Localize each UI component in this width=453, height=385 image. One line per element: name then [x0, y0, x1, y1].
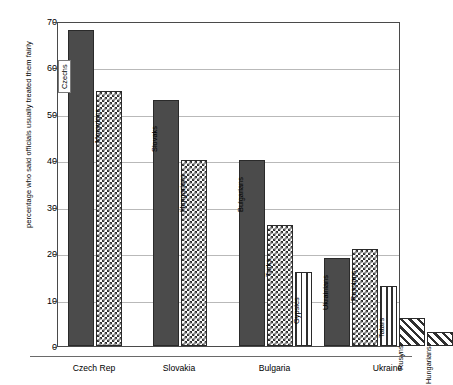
x-axis-line [30, 356, 412, 357]
x-tick-label-slovakia: Slovakia [129, 363, 229, 373]
bar-label: Ukrainians [322, 275, 330, 310]
bar-label: Bulgarians [237, 177, 245, 212]
bar-turks-bulgaria [267, 225, 293, 346]
bar-label: Tatars [378, 318, 386, 338]
x-tick-label-bulgaria: Bulgaria [225, 363, 325, 373]
bar-rusyns-ukraine [399, 318, 425, 346]
gridline [58, 69, 399, 70]
bar-label: Gypsies [293, 297, 301, 324]
bar-label: Czechs [58, 61, 71, 94]
bar-label: Russians [350, 270, 358, 300]
bar-label: Turks [265, 259, 273, 277]
bar-czechs-czech-rep [68, 30, 94, 346]
bar-label: Slovaks [151, 126, 159, 152]
y-tick-mark [53, 347, 57, 348]
y-axis: 010203040506070 [22, 22, 57, 347]
bar-label: Hungarians [179, 174, 187, 212]
bar-hungarians-ukraine [427, 332, 453, 346]
plot-area: CzechsMoraviansSlovaksHungariansBulgaria… [57, 22, 400, 347]
x-tick-label-ukraine: Ukraine [338, 363, 438, 373]
bar-label: Moravians [94, 109, 102, 143]
